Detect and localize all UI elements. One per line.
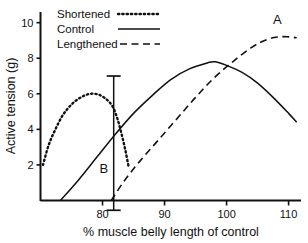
x-tick-label: 100 bbox=[217, 208, 235, 220]
legend-label-lengthened: Lengthened bbox=[57, 38, 118, 50]
figure-container: 246810 8090100110 AB % muscle belly leng… bbox=[0, 0, 308, 243]
annotation-label-a: A bbox=[273, 12, 282, 27]
legend-label-shortened: Shortened bbox=[57, 8, 110, 20]
x-axis-tick-labels: 8090100110 bbox=[96, 208, 297, 220]
x-tick-label: 110 bbox=[280, 208, 298, 220]
x-axis-title: % muscle belly length of control bbox=[83, 225, 259, 239]
y-tick-label: 2 bbox=[27, 159, 33, 171]
series-curve-lengthened bbox=[111, 37, 296, 201]
y-tick-label: 4 bbox=[27, 123, 33, 135]
annotation-label-b: B bbox=[99, 161, 108, 176]
y-tick-label: 6 bbox=[27, 88, 33, 100]
active-tension-line-chart: 246810 8090100110 AB % muscle belly leng… bbox=[0, 0, 308, 243]
x-tick-label: 80 bbox=[96, 208, 108, 220]
chart-series-group bbox=[43, 37, 297, 201]
y-axis-title: Active tension (g) bbox=[4, 58, 18, 155]
series-curve-shortened bbox=[43, 94, 129, 167]
y-tick-label: 8 bbox=[27, 52, 33, 64]
legend-label-control: Control bbox=[57, 23, 94, 35]
x-tick-label: 90 bbox=[158, 208, 170, 220]
series-curve-control bbox=[60, 62, 296, 201]
y-axis-tick-labels: 246810 bbox=[21, 17, 33, 171]
y-tick-label: 10 bbox=[21, 17, 33, 29]
chart-legend: ShortenedControlLengthened bbox=[57, 8, 160, 50]
